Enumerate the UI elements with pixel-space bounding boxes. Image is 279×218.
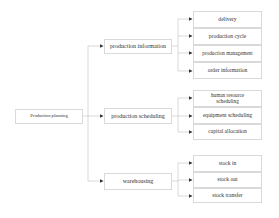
leaf-order-information: order information: [193, 62, 262, 79]
node-label: stock out: [217, 177, 237, 183]
node-production-information: production information: [104, 39, 172, 54]
node-label: capital allocation: [208, 129, 246, 135]
node-label: equipment scheduling: [203, 113, 252, 119]
leaf-stock-transfer: stock transfer: [193, 188, 262, 203]
leaf-stock-in: stock in: [193, 155, 262, 172]
leaf-production-cycle: production cycle: [193, 28, 262, 45]
leaf-human-resource-scheduling: human resource scheduling: [193, 90, 262, 107]
node-label: stock transfer: [212, 193, 242, 199]
leaf-capital-allocation: capital allocation: [193, 124, 262, 140]
node-warehousing: warehousing: [104, 173, 172, 190]
leaf-production-management: production management: [193, 45, 262, 62]
node-label: stock in: [219, 161, 237, 167]
root-node-production-planning: Production planning: [15, 109, 83, 124]
node-label: order information: [208, 68, 248, 74]
node-label: production scheduling: [111, 113, 165, 119]
node-label: Production planning: [30, 114, 67, 119]
node-label: warehousing: [123, 178, 154, 184]
leaf-stock-out: stock out: [193, 172, 262, 188]
leaf-equipment-scheduling: equipment scheduling: [193, 107, 262, 124]
node-label: production management: [202, 51, 252, 56]
node-label: production cycle: [209, 34, 246, 40]
node-label: human resource scheduling: [204, 93, 251, 104]
diagram-canvas: Production planning production informati…: [0, 0, 279, 218]
node-label: delivery: [218, 17, 236, 23]
node-production-scheduling: production scheduling: [104, 108, 172, 124]
leaf-delivery: delivery: [193, 11, 262, 28]
node-label: production information: [110, 43, 166, 49]
